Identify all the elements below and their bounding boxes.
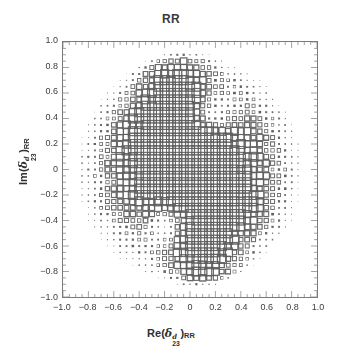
y-tick-label: 0 [26,165,58,174]
y-axis-label: Im(δd23)RR [17,87,30,237]
x-tick-label: 1.0 [301,303,335,312]
y-tick-label: 0.6 [26,87,58,96]
x-axis-tick-labels: −1.0−0.8−0.6−0.4−0.200.20.40.60.81.0 [0,303,342,317]
y-tick-label: −0.6 [26,242,58,251]
y-tick-label: −0.2 [26,190,58,199]
y-tick-label: 0.4 [26,113,58,122]
y-tick-label: 1.0 [26,36,58,45]
scatter-data-canvas [63,42,317,297]
y-tick-label: 0.8 [26,62,58,71]
y-tick-label: −0.4 [26,216,58,225]
x-axis-label: Re(δd23)RR [0,327,342,340]
y-axis-label-text: Im(δd23)RR [17,138,29,185]
y-tick-label: 0.2 [26,139,58,148]
plot-area [62,41,318,298]
figure-chart-RR: RR 1.00.80.60.40.20−0.2−0.4−0.6−0.8−1.0 … [0,0,342,356]
y-tick-label: −0.8 [26,267,58,276]
x-axis-label-text: Re(δd23)RR [147,327,195,340]
y-tick-label: −1.0 [26,293,58,302]
